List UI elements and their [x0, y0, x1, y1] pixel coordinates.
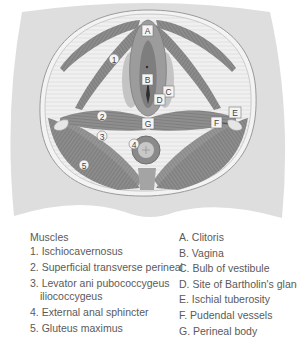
structures-legend: A. Clitoris B. Vagina C. Bulb of vestibu… — [179, 231, 297, 340]
svg-text:D: D — [156, 95, 162, 105]
legend-item-g: G. Perineal body — [179, 325, 297, 337]
svg-text:F: F — [214, 118, 219, 128]
legend-item-2: 2. Superficial transverse perineal — [30, 261, 183, 273]
legend-item-d: D. Site of Bartholin's gland — [179, 278, 297, 290]
perineum-diagram: A B C D E F G 1 2 3 4 5 — [0, 0, 297, 230]
legend-item-f: F. Pudendal vessels — [179, 309, 297, 321]
legend-item-c: C. Bulb of vestibule — [179, 262, 297, 274]
label-d: D — [154, 94, 165, 105]
label-f: F — [211, 117, 222, 128]
svg-text:2: 2 — [100, 112, 105, 122]
svg-text:1: 1 — [112, 55, 117, 65]
label-3: 3 — [97, 131, 107, 142]
legend-item-3: 3. Levator ani pubococcygeus — [30, 277, 183, 289]
legend-item-5: 5. Gluteus maximus — [30, 322, 183, 334]
legend-item-4: 4. External anal sphincter — [30, 306, 183, 318]
legend-item-3-continuation: iliococcygeus — [30, 290, 183, 302]
label-a: A — [142, 25, 153, 36]
muscles-legend: Muscles 1. Ischiocavernosus 2. Superfici… — [30, 231, 183, 338]
legend-item-e: E. Ischial tuberosity — [179, 293, 297, 305]
legend-item-b: B. Vagina — [179, 247, 297, 259]
svg-text:E: E — [232, 108, 238, 118]
legend-item-1: 1. Ischiocavernosus — [30, 245, 183, 257]
label-4: 4 — [129, 139, 139, 150]
svg-text:A: A — [145, 26, 151, 36]
muscles-legend-title: Muscles — [30, 231, 183, 243]
label-2: 2 — [97, 111, 107, 122]
svg-text:B: B — [145, 75, 151, 85]
svg-text:4: 4 — [132, 140, 137, 150]
svg-text:3: 3 — [100, 132, 105, 142]
svg-text:G: G — [145, 119, 152, 129]
label-1: 1 — [109, 54, 119, 65]
label-g: G — [142, 118, 154, 129]
svg-text:C: C — [165, 87, 171, 97]
svg-text:5: 5 — [82, 161, 87, 171]
legend-item-a: A. Clitoris — [179, 231, 297, 243]
label-e: E — [229, 107, 241, 118]
label-b: B — [142, 74, 153, 85]
label-5: 5 — [79, 160, 89, 171]
